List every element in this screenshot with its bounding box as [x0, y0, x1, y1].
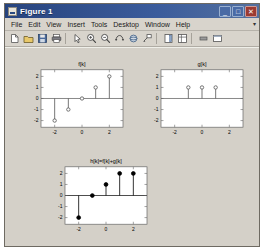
- open-file-icon[interactable]: [22, 32, 35, 45]
- toolbar-separator-3: [191, 33, 195, 44]
- figure-window: Figure 1 _ □ ✕ File Edit View Insert Too…: [4, 3, 260, 247]
- figure-icon: [8, 7, 17, 16]
- pointer-icon[interactable]: [71, 32, 84, 45]
- svg-text:2: 2: [60, 171, 63, 176]
- figure-canvas-area[interactable]: -2-1012-202f[k] -2-1012-202g[k] -2-1012-…: [5, 47, 259, 246]
- menu-item-insert[interactable]: Insert: [64, 19, 88, 30]
- menu-item-tools[interactable]: Tools: [88, 19, 110, 30]
- save-figure-icon[interactable]: [36, 32, 49, 45]
- menu-item-edit[interactable]: Edit: [25, 19, 43, 30]
- title-bar[interactable]: Figure 1 _ □ ✕: [5, 4, 259, 18]
- svg-text:0: 0: [81, 130, 84, 135]
- svg-text:-2: -2: [34, 118, 39, 123]
- svg-text:1: 1: [156, 85, 159, 90]
- svg-text:0: 0: [156, 96, 159, 101]
- svg-text:-2: -2: [172, 130, 177, 135]
- insert-legend-icon[interactable]: [176, 32, 189, 45]
- svg-text:2: 2: [36, 74, 39, 79]
- minimize-glyph: _: [220, 8, 230, 15]
- maximize-glyph: □: [233, 8, 243, 15]
- menu-overflow-chevron-icon[interactable]: ▾: [253, 19, 256, 29]
- svg-text:2: 2: [156, 74, 159, 79]
- menu-item-view[interactable]: View: [43, 19, 64, 30]
- rotate-3d-icon[interactable]: [127, 32, 140, 45]
- svg-text:0: 0: [60, 193, 63, 198]
- insert-colorbar-icon[interactable]: [162, 32, 175, 45]
- menu-item-file[interactable]: File: [8, 19, 25, 30]
- subplot-g: -2-1012-202g[k]: [154, 61, 243, 135]
- window-title: Figure 1: [20, 7, 219, 16]
- subplot-h: -2-1012-202h[k]=f[k]+g[k]: [58, 158, 147, 232]
- data-cursor-icon[interactable]: [141, 32, 154, 45]
- svg-text:-2: -2: [52, 130, 57, 135]
- hide-plot-tools-icon[interactable]: [197, 32, 210, 45]
- print-figure-icon[interactable]: [50, 32, 63, 45]
- menu-bar: File Edit View Insert Tools Desktop Wind…: [5, 18, 259, 31]
- svg-text:0: 0: [105, 227, 108, 232]
- svg-text:0: 0: [201, 130, 204, 135]
- zoom-out-icon[interactable]: [99, 32, 112, 45]
- svg-text:-1: -1: [154, 107, 159, 112]
- svg-text:2: 2: [132, 227, 135, 232]
- svg-text:2: 2: [228, 130, 231, 135]
- svg-text:1: 1: [36, 85, 39, 90]
- close-button[interactable]: ✕: [245, 6, 257, 17]
- svg-text:h[k]=f[k]+g[k]: h[k]=f[k]+g[k]: [90, 158, 122, 164]
- svg-text:f[k]: f[k]: [78, 61, 86, 67]
- toolbar-separator-1: [65, 33, 69, 44]
- toolbar-separator-2: [156, 33, 160, 44]
- maximize-button[interactable]: □: [232, 6, 244, 17]
- svg-text:2: 2: [108, 130, 111, 135]
- svg-text:1: 1: [60, 182, 63, 187]
- new-figure-icon[interactable]: [8, 32, 21, 45]
- menu-item-window[interactable]: Window: [142, 19, 173, 30]
- menu-item-desktop[interactable]: Desktop: [110, 19, 142, 30]
- svg-text:-1: -1: [58, 204, 63, 209]
- show-plot-tools-icon[interactable]: [211, 32, 224, 45]
- minimize-button[interactable]: _: [219, 6, 231, 17]
- svg-text:-2: -2: [154, 118, 159, 123]
- tool-bar: [5, 31, 259, 47]
- pan-icon[interactable]: [113, 32, 126, 45]
- zoom-in-icon[interactable]: [85, 32, 98, 45]
- window-controls: _ □ ✕: [219, 6, 257, 17]
- subplot-f: -2-1012-202f[k]: [34, 61, 123, 135]
- svg-text:0: 0: [36, 96, 39, 101]
- figure-plot-svg: -2-1012-202f[k] -2-1012-202g[k] -2-1012-…: [5, 48, 259, 246]
- close-glyph: ✕: [246, 8, 256, 15]
- svg-text:g[k]: g[k]: [198, 61, 207, 67]
- svg-text:-1: -1: [34, 107, 39, 112]
- svg-text:-2: -2: [58, 215, 63, 220]
- menu-item-help[interactable]: Help: [173, 19, 193, 30]
- svg-text:-2: -2: [76, 227, 81, 232]
